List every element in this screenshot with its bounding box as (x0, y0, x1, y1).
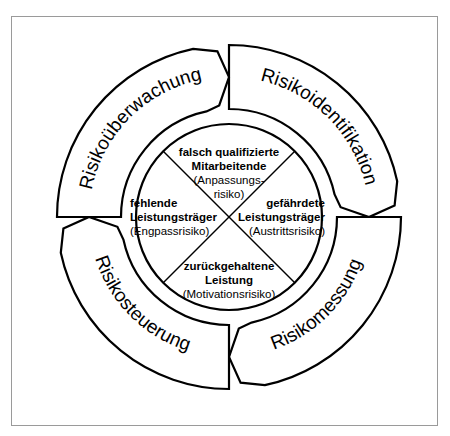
quadrant-bottom: zurückgehaltene Leistung (Motivationsris… (183, 260, 276, 300)
risk-cycle-diagram: Risikoidentifikation Risikomessung Risik… (0, 0, 450, 436)
quadrant-top-subtitle-2: risiko) (214, 188, 245, 200)
quadrant-right-title-2: Leistungsträger (238, 211, 325, 223)
quadrant-left: fehlende Leistungsträger (Engpassrisiko) (130, 197, 217, 237)
quadrant-left-title-2: Leistungsträger (130, 211, 217, 223)
quadrant-top-title-2: Mitarbeitende (192, 160, 267, 172)
quadrant-bottom-title-2: Leistung (205, 274, 253, 286)
quadrant-top-subtitle-1: (Anpassungs- (194, 174, 265, 186)
quadrant-bottom-title-1: zurückgehaltene (184, 260, 275, 272)
quadrant-left-title-1: fehlende (130, 197, 177, 209)
quadrant-bottom-subtitle: (Motivationsrisiko) (183, 288, 276, 300)
quadrant-right: gefährdete Leistungsträger (Austrittsris… (238, 197, 325, 237)
quadrant-top: falsch qualifizierte Mitarbeitende (Anpa… (179, 146, 279, 200)
quadrant-top-title-1: falsch qualifizierte (179, 146, 279, 158)
quadrant-left-subtitle: (Engpassrisiko) (130, 225, 209, 237)
quadrant-right-subtitle: (Austrittsrisiko) (249, 225, 325, 237)
quadrant-right-title-1: gefährdete (266, 197, 325, 209)
